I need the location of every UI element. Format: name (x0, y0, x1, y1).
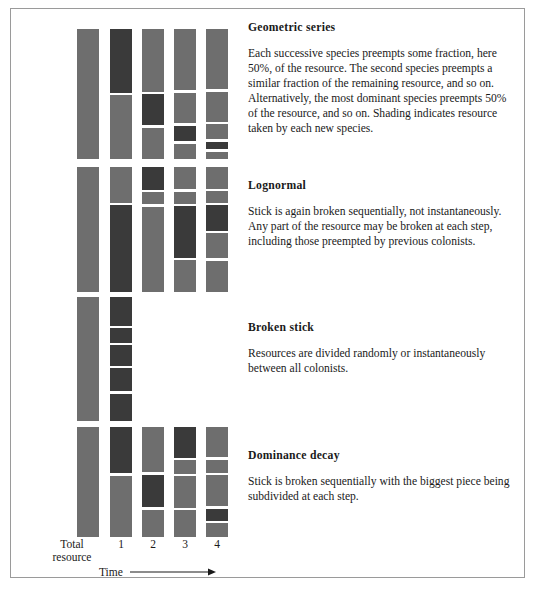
bar-dominance-decay-total-resource (77, 427, 99, 537)
bar-lognormal-time-3 (174, 167, 196, 292)
bar-segment-existing (142, 192, 164, 204)
model-bars-lognormal (11, 167, 236, 292)
bar-segment-new-species (174, 126, 196, 141)
description-title-broken-stick: Broken stick (248, 321, 510, 334)
bar-geometric-series-time-4 (206, 29, 228, 159)
bar-segment-existing (142, 207, 164, 292)
bar-segment-existing (174, 167, 196, 189)
bar-segment-existing (206, 460, 228, 473)
axis-tick-2: 2 (142, 538, 164, 551)
bar-segment-new-species (110, 427, 132, 473)
bar-segment-existing (206, 29, 228, 89)
bar-lognormal-total-resource (77, 167, 99, 292)
bar-segment-existing (206, 523, 228, 537)
bar-segment-existing (174, 476, 196, 508)
axis-tick-4: 4 (206, 538, 228, 551)
bar-segment-existing (206, 92, 228, 122)
bar-segment-new-species (110, 394, 132, 421)
bar-segment-new-species (110, 345, 132, 366)
description-body-dominance-decay: Stick is broken sequentially with the bi… (248, 474, 510, 504)
bar-segment-existing (142, 128, 164, 159)
axis-total-line1: Total (44, 538, 100, 551)
bar-segment-new-species (206, 205, 228, 230)
bar-segment-existing (174, 260, 196, 292)
bar-broken-stick-time-1 (110, 297, 132, 421)
bar-segment-existing (206, 124, 228, 139)
bar-geometric-series-total-resource (77, 29, 99, 159)
bar-segment-existing (206, 191, 228, 203)
bar-geometric-series-time-2 (142, 29, 164, 159)
model-descriptions: Geometric seriesEach successive species … (248, 9, 518, 579)
bar-segment-existing (142, 427, 164, 472)
bar-dominance-decay-time-3 (174, 427, 196, 537)
description-geometric-series: Geometric seriesEach successive species … (248, 21, 510, 137)
description-body-lognormal: Stick is again broken sequentially, not … (248, 204, 510, 249)
bar-segment-existing (142, 510, 164, 537)
bar-segment-existing (174, 510, 196, 537)
description-broken-stick: Broken stickResources are divided random… (248, 321, 510, 376)
bar-segment-new-species (206, 142, 228, 150)
bar-segment-existing (110, 167, 132, 203)
bar-segment-existing (174, 192, 196, 204)
bar-lognormal-time-1 (110, 167, 132, 292)
description-dominance-decay: Dominance decayStick is broken sequentia… (248, 449, 510, 504)
description-title-geometric-series: Geometric series (248, 21, 510, 34)
bar-segment-existing (142, 29, 164, 92)
bar-segment-new-species (206, 509, 228, 521)
bar-segment-new-species (142, 167, 164, 190)
bar-segment-existing (77, 167, 99, 292)
bar-dominance-decay-time-2 (142, 427, 164, 537)
bar-segment-new-species (142, 475, 164, 508)
description-lognormal: LognormalStick is again broken sequentia… (248, 179, 510, 249)
bar-segment-existing (206, 475, 228, 506)
bar-segment-new-species (174, 206, 196, 258)
bar-segment-existing (206, 261, 228, 292)
bar-segment-existing (77, 297, 99, 421)
time-axis-arrow-row: Time (99, 566, 216, 578)
model-bars-dominance-decay (11, 427, 236, 537)
abundance-model-diagram (11, 9, 236, 579)
bar-segment-existing (206, 233, 228, 258)
time-axis: Total resource Time 1234 (11, 536, 236, 581)
bar-segment-existing (174, 93, 196, 124)
bar-segment-existing (206, 167, 228, 189)
bar-segment-new-species (142, 94, 164, 125)
bar-segment-existing (77, 29, 99, 159)
axis-tick-3: 3 (174, 538, 196, 551)
bar-segment-existing (110, 95, 132, 159)
bar-segment-existing (174, 144, 196, 159)
bar-segment-existing (110, 476, 132, 537)
axis-total-resource-label: Total resource (44, 538, 100, 563)
axis-total-line2: resource (44, 551, 100, 564)
bar-segment-existing (174, 29, 196, 90)
description-body-broken-stick: Resources are divided randomly or instan… (248, 346, 510, 376)
time-axis-label: Time (99, 566, 123, 578)
bar-segment-existing (206, 152, 228, 160)
bar-segment-existing (206, 427, 228, 457)
description-title-lognormal: Lognormal (248, 179, 510, 192)
bar-segment-existing (77, 427, 99, 537)
bar-segment-new-species (174, 427, 196, 458)
bar-segment-new-species (110, 297, 132, 326)
bar-segment-new-species (110, 29, 132, 93)
bar-broken-stick-total-resource (77, 297, 99, 421)
bar-segment-new-species (110, 328, 132, 343)
figure-frame: Total resource Time 1234 Geometric serie… (10, 8, 525, 578)
model-bars-geometric-series (11, 29, 236, 159)
description-title-dominance-decay: Dominance decay (248, 449, 510, 462)
bar-lognormal-time-4 (206, 167, 228, 292)
bar-segment-new-species (110, 205, 132, 292)
description-body-geometric-series: Each successive species preempts some fr… (248, 46, 510, 137)
right-arrow-icon (130, 567, 216, 577)
bar-segment-new-species (110, 368, 132, 391)
bar-geometric-series-time-1 (110, 29, 132, 159)
bar-dominance-decay-time-4 (206, 427, 228, 537)
bar-segment-existing (174, 460, 196, 473)
bar-lognormal-time-2 (142, 167, 164, 292)
bar-dominance-decay-time-1 (110, 427, 132, 537)
axis-tick-1: 1 (110, 538, 132, 551)
bar-geometric-series-time-3 (174, 29, 196, 159)
model-bars-broken-stick (11, 297, 236, 421)
